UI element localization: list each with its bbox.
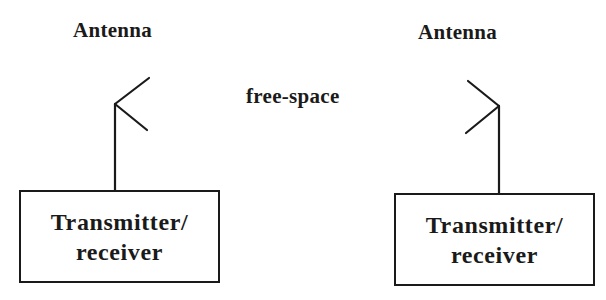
left-box-line1: Transmitter/ (51, 207, 188, 237)
right-box-line2: receiver (451, 240, 538, 270)
left-antenna-icon (115, 78, 149, 191)
right-transceiver-box: Transmitter/ receiver (394, 193, 595, 286)
left-antenna-lower-arm (115, 104, 147, 130)
free-space-label: free-space (246, 86, 340, 107)
left-box-line2: receiver (76, 237, 163, 267)
right-antenna-lower-arm (466, 106, 499, 133)
left-antenna-upper-arm (115, 78, 149, 104)
right-antenna-upper-arm (468, 81, 499, 106)
right-antenna-icon (466, 81, 499, 194)
left-antenna-label: Antenna (73, 20, 152, 41)
right-antenna-label: Antenna (418, 22, 497, 43)
left-transceiver-box: Transmitter/ receiver (19, 190, 220, 283)
right-box-line1: Transmitter/ (426, 210, 563, 240)
